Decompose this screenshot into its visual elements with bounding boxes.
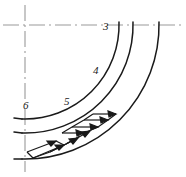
diagram-canvas (0, 0, 186, 177)
velocity-arrowhead-u1 (108, 111, 116, 117)
lower-profile-envelope (27, 152, 33, 158)
velocity-arrowhead-l4 (81, 131, 90, 137)
outer-wall-arc (22, 22, 159, 159)
callout-label-5: 5 (64, 96, 70, 107)
callout-label-6: 6 (23, 100, 29, 111)
figure-root: 3 4 5 6 (0, 0, 186, 177)
middle-wall-arc (22, 22, 133, 133)
duct-walls-group (22, 22, 159, 159)
inner-wall-arc (22, 22, 119, 119)
callout-label-3: 3 (103, 21, 109, 32)
inner-arc-left-cap (14, 118, 22, 119)
middle-arc-left-cap (14, 132, 22, 133)
left-end-caps-group (14, 118, 22, 159)
centerlines-group (3, 5, 183, 172)
callout-label-4: 4 (93, 65, 99, 76)
